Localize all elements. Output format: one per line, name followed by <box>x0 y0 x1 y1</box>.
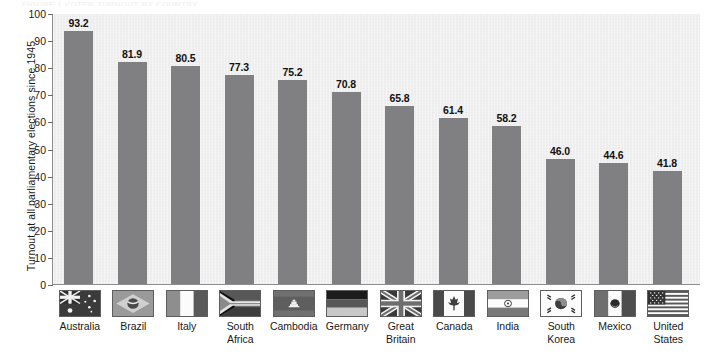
x-axis-label-line: Great <box>374 320 428 333</box>
x-axis-label: Italy <box>160 320 214 333</box>
bar-series: 93.281.980.577.375.270.865.861.458.246.0… <box>53 14 700 284</box>
x-axis-label: India <box>481 320 535 333</box>
flag-brazil-icon <box>112 290 154 317</box>
bar-slot: 44.6 <box>589 14 643 284</box>
flag-cell <box>107 290 161 318</box>
x-axis-label-line: South <box>214 320 268 333</box>
x-axis-label: SouthKorea <box>535 320 589 345</box>
x-axis-label-line: Britain <box>374 333 428 346</box>
y-tick-label: 80 <box>34 62 46 74</box>
bar-chart: FIGURE 1 VOTER TURNOUT BY COUNTRY Turnou… <box>0 0 712 361</box>
flag-cambodia-icon <box>273 290 315 317</box>
flag-cell <box>321 290 375 318</box>
x-axis-label: SouthAfrica <box>214 320 268 345</box>
y-tick-label: 40 <box>34 171 46 183</box>
bar-slot: 61.4 <box>429 14 483 284</box>
flag-cell <box>160 290 214 318</box>
x-axis-label-line: Africa <box>214 333 268 346</box>
y-tick-label: 10 <box>34 252 46 264</box>
bar-slot: 70.8 <box>322 14 376 284</box>
x-axis-label-line: Mexico <box>588 320 642 333</box>
flag-united-states-icon <box>647 290 689 317</box>
flag-cell <box>642 290 696 318</box>
flag-australia-icon <box>59 290 101 317</box>
bar-slot: 81.9 <box>108 14 162 284</box>
x-axis-label: Brazil <box>107 320 161 333</box>
flag-row <box>52 290 700 318</box>
bar[interactable] <box>332 92 361 284</box>
bar-slot: 58.2 <box>482 14 536 284</box>
x-axis-label-line: India <box>481 320 535 333</box>
y-tick-label: 20 <box>34 225 46 237</box>
bar[interactable] <box>225 75 254 284</box>
x-axis-label-line: United <box>642 320 696 333</box>
flag-south-africa-icon <box>219 290 261 317</box>
x-axis-label: UnitedStates <box>642 320 696 345</box>
y-tick <box>48 285 53 286</box>
flag-canada-icon <box>433 290 475 317</box>
x-axis-label-line: Italy <box>160 320 214 333</box>
flag-italy-icon <box>166 290 208 317</box>
flag-south-korea-icon <box>540 290 582 317</box>
flag-mexico-icon <box>594 290 636 317</box>
flag-cell <box>535 290 589 318</box>
y-tick-label: 0 <box>40 279 46 291</box>
x-axis-label-line: Australia <box>53 320 107 333</box>
bar[interactable] <box>439 118 468 284</box>
flag-cell <box>267 290 321 318</box>
y-tick-label: 60 <box>34 116 46 128</box>
flag-cell <box>481 290 535 318</box>
bar-slot: 93.2 <box>54 14 108 284</box>
bar[interactable] <box>653 171 682 284</box>
bar-value-label: 77.3 <box>225 61 254 73</box>
bar[interactable] <box>599 163 628 284</box>
bar-slot: 41.8 <box>643 14 697 284</box>
bar-value-label: 81.9 <box>118 48 147 60</box>
figure-caption: FIGURE 1 VOTER TURNOUT BY COUNTRY <box>22 0 322 6</box>
flag-cell <box>588 290 642 318</box>
bar-value-label: 44.6 <box>599 149 628 161</box>
x-axis-label-line: South <box>535 320 589 333</box>
bar[interactable] <box>118 62 147 284</box>
x-axis-label-line: Germany <box>321 320 375 333</box>
flag-cell <box>428 290 482 318</box>
x-axis-label: Canada <box>428 320 482 333</box>
bar[interactable] <box>278 80 307 284</box>
x-axis-labels: AustraliaBrazilItalySouthAfricaCambodiaG… <box>52 320 700 358</box>
bar[interactable] <box>171 66 200 284</box>
bar-value-label: 70.8 <box>332 78 361 90</box>
x-axis-label-line: States <box>642 333 696 346</box>
flag-cell <box>374 290 428 318</box>
flag-cell <box>214 290 268 318</box>
y-tick-label: 30 <box>34 198 46 210</box>
bar[interactable] <box>64 31 93 284</box>
bar[interactable] <box>546 159 575 284</box>
y-tick-label: 100 <box>28 8 46 20</box>
flag-cell <box>53 290 107 318</box>
x-axis-label: GreatBritain <box>374 320 428 345</box>
bar-value-label: 58.2 <box>492 112 521 124</box>
x-axis-label: Cambodia <box>267 320 321 333</box>
bar-value-label: 65.8 <box>385 92 414 104</box>
plot-area: 1009080706050403020100 93.281.980.577.37… <box>52 14 700 285</box>
bar-slot: 77.3 <box>215 14 269 284</box>
bar-slot: 65.8 <box>375 14 429 284</box>
x-axis-label-line: Cambodia <box>267 320 321 333</box>
x-axis-label: Germany <box>321 320 375 333</box>
bar-value-label: 75.2 <box>278 66 307 78</box>
flag-great-britain-icon <box>380 290 422 317</box>
y-tick-label: 90 <box>34 35 46 47</box>
y-tick-label: 70 <box>34 89 46 101</box>
bar-value-label: 41.8 <box>653 157 682 169</box>
y-tick-label: 50 <box>34 144 46 156</box>
bar-slot: 80.5 <box>161 14 215 284</box>
bar[interactable] <box>385 106 414 284</box>
bar-value-label: 46.0 <box>546 145 575 157</box>
bar-value-label: 80.5 <box>171 52 200 64</box>
bar-slot: 46.0 <box>536 14 590 284</box>
flag-india-icon <box>487 290 529 317</box>
bar-value-label: 93.2 <box>64 17 93 29</box>
bar-value-label: 61.4 <box>439 104 468 116</box>
x-axis-label-line: Canada <box>428 320 482 333</box>
bar[interactable] <box>492 126 521 284</box>
